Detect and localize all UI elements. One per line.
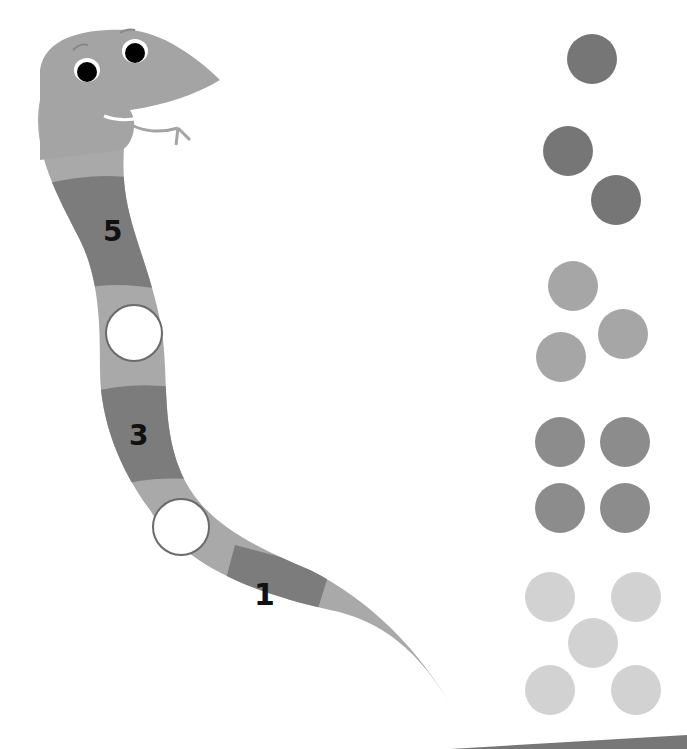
dot-group-3 bbox=[536, 261, 648, 382]
dot bbox=[591, 175, 641, 225]
snake-body bbox=[38, 100, 455, 712]
dot bbox=[536, 332, 586, 382]
dot bbox=[567, 34, 617, 84]
right-eye-pupil-icon bbox=[125, 43, 145, 63]
dot bbox=[535, 483, 585, 533]
dot-group-1 bbox=[567, 34, 617, 84]
dot-group-4 bbox=[535, 417, 650, 533]
page-edge-shadow bbox=[450, 735, 687, 749]
segment-number-3: 3 bbox=[129, 419, 148, 452]
dot bbox=[568, 618, 618, 668]
dot bbox=[525, 572, 575, 622]
snake-worksheet: 5 3 1 bbox=[0, 0, 687, 749]
dot bbox=[611, 665, 661, 715]
dot bbox=[535, 417, 585, 467]
segment-number-5: 5 bbox=[103, 215, 122, 248]
left-eye-pupil-icon bbox=[77, 62, 97, 82]
snake-head bbox=[40, 29, 220, 160]
dot bbox=[598, 309, 648, 359]
dot-group-5 bbox=[525, 572, 661, 715]
dot-group-2 bbox=[543, 126, 641, 225]
segment-number-1: 1 bbox=[254, 577, 275, 612]
dot bbox=[600, 483, 650, 533]
dot bbox=[611, 572, 661, 622]
dot bbox=[543, 126, 593, 176]
dot bbox=[548, 261, 598, 311]
answer-blank-2[interactable] bbox=[153, 499, 209, 555]
dot bbox=[525, 665, 575, 715]
answer-blank-4[interactable] bbox=[106, 305, 162, 361]
dot bbox=[600, 417, 650, 467]
